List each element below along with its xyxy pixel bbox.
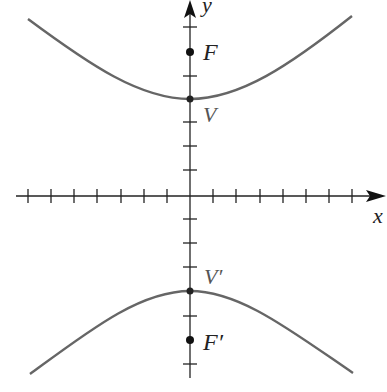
focus-top-label: F: [203, 40, 218, 64]
y-axis: [183, 10, 197, 378]
focus-top-point: [186, 48, 194, 56]
vertex-bottom-point: [187, 288, 194, 295]
y-axis-label: y: [202, 0, 212, 16]
hyperbola-lower-branch: [30, 291, 353, 374]
vertex-bottom-label: V′: [204, 266, 222, 288]
vertex-top-label: V: [203, 104, 216, 126]
vertex-top-point: [187, 96, 194, 103]
focus-bottom-point: [186, 336, 194, 344]
x-axis: [16, 189, 372, 203]
x-axis-label: x: [373, 205, 383, 227]
diagram-canvas: [0, 0, 387, 392]
focus-bottom-label: F′: [203, 330, 223, 354]
hyperbola-diagram: y x F V V′ F′: [0, 0, 387, 392]
